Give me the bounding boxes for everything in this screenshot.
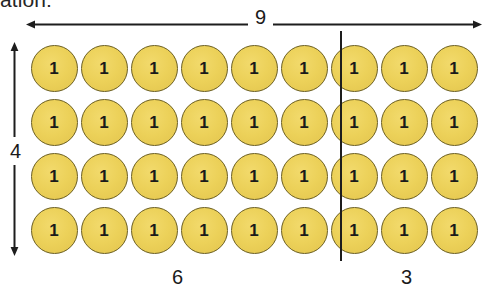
counter-cell: 1 xyxy=(179,203,229,257)
counter-grid: 111111111111111111111111111111111111 xyxy=(29,41,479,257)
counter-cell: 1 xyxy=(429,41,479,95)
counter-cell: 1 xyxy=(129,41,179,95)
counter-token: 1 xyxy=(181,99,228,146)
counter-cell: 1 xyxy=(329,149,379,203)
top-width-label: 9 xyxy=(248,6,273,28)
left-height-label: 4 xyxy=(6,137,25,165)
counter-token: 1 xyxy=(431,45,478,92)
counter-cell: 1 xyxy=(79,95,129,149)
counter-token: 1 xyxy=(181,207,228,254)
counter-cell: 1 xyxy=(29,203,79,257)
counter-token: 1 xyxy=(131,99,178,146)
counter-token: 1 xyxy=(381,153,428,200)
counter-cell: 1 xyxy=(129,203,179,257)
counter-cell: 1 xyxy=(429,203,479,257)
counter-cell: 1 xyxy=(179,95,229,149)
clipped-heading-text: ation: xyxy=(0,0,52,12)
counter-token: 1 xyxy=(431,99,478,146)
counter-token: 1 xyxy=(81,99,128,146)
bottom-right-group-label: 3 xyxy=(401,266,412,288)
counter-token: 1 xyxy=(281,207,328,254)
counter-cell: 1 xyxy=(279,203,329,257)
counter-token: 1 xyxy=(31,153,78,200)
counter-token: 1 xyxy=(281,45,328,92)
counter-token: 1 xyxy=(81,207,128,254)
counter-cell: 1 xyxy=(279,149,329,203)
counter-cell: 1 xyxy=(379,95,429,149)
counter-cell: 1 xyxy=(279,95,329,149)
counter-token: 1 xyxy=(181,153,228,200)
counter-token: 1 xyxy=(331,45,378,92)
counter-cell: 1 xyxy=(29,95,79,149)
counter-cell: 1 xyxy=(429,149,479,203)
counter-cell: 1 xyxy=(379,203,429,257)
illustration-canvas: ation: 9 4 11111111111111111111111111111… xyxy=(0,0,492,296)
counter-cell: 1 xyxy=(279,41,329,95)
counter-token: 1 xyxy=(81,45,128,92)
counter-cell: 1 xyxy=(429,95,479,149)
counter-cell: 1 xyxy=(329,203,379,257)
counter-token: 1 xyxy=(181,45,228,92)
counter-token: 1 xyxy=(381,207,428,254)
counter-cell: 1 xyxy=(229,203,279,257)
counter-token: 1 xyxy=(31,99,78,146)
counter-cell: 1 xyxy=(29,41,79,95)
counter-token: 1 xyxy=(381,99,428,146)
counter-token: 1 xyxy=(381,45,428,92)
counter-token: 1 xyxy=(431,207,478,254)
counter-cell: 1 xyxy=(79,41,129,95)
counter-token: 1 xyxy=(431,153,478,200)
counter-token: 1 xyxy=(281,99,328,146)
counter-cell: 1 xyxy=(179,41,229,95)
counter-token: 1 xyxy=(331,153,378,200)
bottom-left-group-label: 6 xyxy=(172,266,183,288)
counter-token: 1 xyxy=(231,153,278,200)
counter-token: 1 xyxy=(81,153,128,200)
counter-cell: 1 xyxy=(229,41,279,95)
counter-token: 1 xyxy=(131,45,178,92)
counter-token: 1 xyxy=(231,99,278,146)
group-divider-line xyxy=(340,31,342,261)
counter-token: 1 xyxy=(331,207,378,254)
counter-token: 1 xyxy=(131,153,178,200)
counter-cell: 1 xyxy=(229,95,279,149)
counter-cell: 1 xyxy=(379,41,429,95)
counter-token: 1 xyxy=(281,153,328,200)
counter-cell: 1 xyxy=(79,149,129,203)
counter-cell: 1 xyxy=(379,149,429,203)
counter-token: 1 xyxy=(231,45,278,92)
counter-cell: 1 xyxy=(129,95,179,149)
counter-token: 1 xyxy=(31,207,78,254)
counter-token: 1 xyxy=(331,99,378,146)
counter-token: 1 xyxy=(31,45,78,92)
counter-cell: 1 xyxy=(329,95,379,149)
counter-token: 1 xyxy=(231,207,278,254)
counter-cell: 1 xyxy=(129,149,179,203)
counter-token: 1 xyxy=(131,207,178,254)
counter-cell: 1 xyxy=(329,41,379,95)
counter-cell: 1 xyxy=(29,149,79,203)
counter-cell: 1 xyxy=(79,203,129,257)
counter-cell: 1 xyxy=(229,149,279,203)
counter-cell: 1 xyxy=(179,149,229,203)
